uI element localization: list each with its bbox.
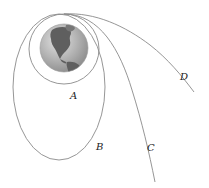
label-a: A (69, 90, 77, 101)
label-b: B (95, 141, 103, 152)
orbit-diagram: A B C D (0, 0, 209, 188)
label-c: C (147, 142, 155, 153)
label-d: D (179, 71, 188, 82)
earth-globe-icon (40, 24, 88, 82)
